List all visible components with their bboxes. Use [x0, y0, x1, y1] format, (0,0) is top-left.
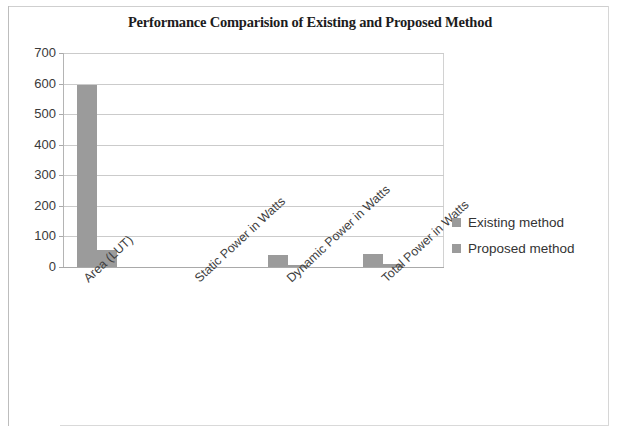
- gridline: [64, 53, 444, 54]
- gridline: [64, 206, 444, 207]
- legend-label: Existing method: [468, 215, 564, 230]
- gridline: [64, 175, 444, 176]
- y-axis-tick-label: 200: [34, 199, 56, 212]
- y-axis-tick-label: 700: [34, 46, 56, 59]
- y-axis-tick-label: 100: [34, 229, 56, 242]
- legend-item[interactable]: Existing method: [452, 209, 575, 235]
- plot-right-border: [443, 53, 444, 267]
- gridline: [64, 114, 444, 115]
- bar[interactable]: [363, 254, 383, 267]
- y-axis-tick: [59, 114, 63, 115]
- legend-label: Proposed method: [468, 241, 575, 256]
- y-axis-tick: [59, 53, 63, 54]
- y-axis-tick-label: 600: [34, 77, 56, 90]
- page-frame-bottom-border: [60, 425, 609, 426]
- gridline: [64, 145, 444, 146]
- y-axis-tick-label: 0: [49, 260, 56, 273]
- y-axis-tick: [59, 175, 63, 176]
- gridline: [64, 84, 444, 85]
- legend-swatch-icon: [452, 244, 461, 253]
- y-axis-labels: 0100200300400500600700: [10, 53, 56, 267]
- y-axis-tick: [59, 145, 63, 146]
- bar[interactable]: [268, 255, 288, 267]
- y-axis-tick-label: 500: [34, 107, 56, 120]
- y-axis-tick: [59, 206, 63, 207]
- legend-swatch-icon: [452, 218, 461, 227]
- page-frame-top-border: [8, 6, 609, 7]
- y-axis-line: [63, 53, 64, 267]
- chart-title: Performance Comparision of Existing and …: [40, 14, 580, 31]
- y-axis-tick: [59, 267, 63, 268]
- y-axis-tick: [59, 236, 63, 237]
- chart-legend: Existing methodProposed method: [452, 209, 575, 261]
- bar[interactable]: [77, 85, 97, 267]
- y-axis-tick-label: 400: [34, 138, 56, 151]
- chart-screenshot: Performance Comparision of Existing and …: [0, 0, 617, 431]
- page-frame-right-border: [608, 6, 609, 426]
- y-axis-tick-label: 300: [34, 168, 56, 181]
- legend-item[interactable]: Proposed method: [452, 235, 575, 261]
- y-axis-tick: [59, 84, 63, 85]
- page-frame-left-border: [8, 6, 9, 426]
